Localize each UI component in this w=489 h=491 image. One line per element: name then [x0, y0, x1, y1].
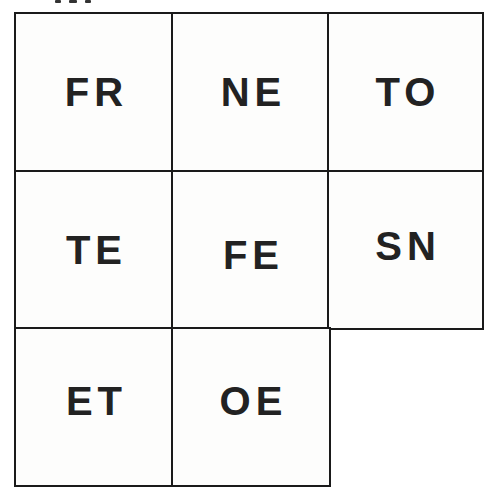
grid-cell-r2c3: SN: [327, 170, 484, 330]
grid-cell-r3c1: ET: [14, 327, 174, 487]
cell-label: TO: [376, 70, 441, 115]
grid-cell-r1c3: TO: [327, 12, 484, 173]
cell-label: FE: [223, 233, 284, 278]
cell-label: OE: [220, 379, 288, 424]
grid-cell-r2c1: TE: [14, 170, 174, 330]
grid-cell-r3c2: OE: [171, 327, 331, 487]
cell-label: ET: [66, 379, 127, 424]
grid-cell-r1c1: FR: [14, 12, 174, 173]
grid-cell-r2c2: FE: [171, 170, 331, 330]
cell-label: FR: [65, 70, 128, 115]
top-text-fragment: [55, 0, 95, 4]
cell-label: TE: [66, 228, 127, 273]
grid-cell-r1c2: NE: [171, 12, 331, 173]
cell-label: NE: [221, 70, 287, 115]
cell-label: SN: [375, 224, 441, 269]
